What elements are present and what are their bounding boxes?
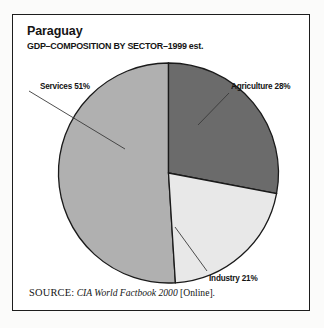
- pie-chart: Services 51% Agriculture 28% Industry 21…: [13, 15, 311, 312]
- slice-label-agriculture: Agriculture 28%: [231, 81, 290, 91]
- pie-slice-services[interactable]: [58, 63, 175, 283]
- figure-frame: Paraguay GDP–COMPOSITION BY SECTOR–1999 …: [12, 14, 310, 311]
- source-note: SOURCE: CIA World Factbook 2000 [Online]…: [29, 287, 215, 298]
- slice-label-services: Services 51%: [40, 81, 90, 91]
- source-prefix-label: SOURCE:: [29, 287, 74, 298]
- source-suffix-label: [Online].: [180, 287, 215, 298]
- slice-label-industry: Industry 21%: [209, 273, 258, 283]
- source-title-label: CIA World Factbook 2000: [77, 287, 178, 298]
- pie-chart-svg: [13, 15, 311, 312]
